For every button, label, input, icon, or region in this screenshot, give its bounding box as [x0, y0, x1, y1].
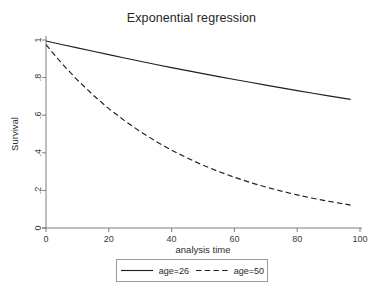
x-tick-label: 80	[292, 234, 302, 244]
legend-entry-age-26: age=26	[120, 266, 189, 276]
legend-label-age-50: age=50	[234, 266, 264, 276]
y-tick-label: 1	[33, 37, 43, 42]
x-tick-label: 60	[229, 234, 239, 244]
legend-label-age-26: age=26	[159, 266, 189, 276]
y-tick-label: .2	[33, 187, 43, 195]
chart-title: Exponential regression	[0, 11, 383, 25]
legend-key-dashed	[195, 266, 229, 275]
x-tick-label: 20	[104, 234, 114, 244]
series-line-age-26	[46, 41, 351, 99]
x-tick-label: 100	[352, 234, 367, 244]
y-axis-title: Survival	[9, 117, 20, 151]
series-line-age-50	[46, 45, 351, 205]
legend-key-solid	[120, 266, 154, 275]
y-tick-label: .6	[33, 111, 43, 119]
chart-legend: age=26 age=50	[116, 259, 268, 282]
x-tick-label: 40	[167, 234, 177, 244]
chart-figure: Exponential regression 0.2.4.6.810204060…	[0, 0, 383, 294]
y-tick-label: .4	[33, 149, 43, 157]
plot-area: 0.2.4.6.81020406080100analysis timeSurvi…	[0, 0, 383, 255]
x-axis-title: analysis time	[176, 244, 231, 255]
y-tick-label: .8	[33, 74, 43, 82]
y-tick-label: 0	[33, 225, 43, 230]
x-tick-label: 0	[43, 234, 48, 244]
legend-entry-age-50: age=50	[195, 266, 264, 276]
